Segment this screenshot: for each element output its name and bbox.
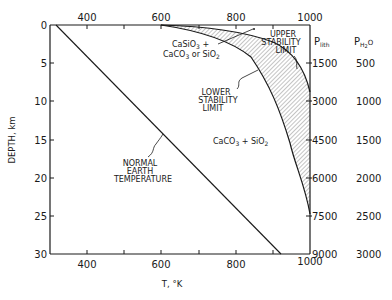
left-tick-label: 20 <box>34 173 47 184</box>
svg-text:LIMIT: LIMIT <box>276 46 297 55</box>
svg-text:CaSiO3 +: CaSiO3 + <box>172 40 209 50</box>
bottom-tick-label: 800 <box>226 259 245 270</box>
top-tick-label: 1000 <box>297 12 322 23</box>
p-lith-tick-label: 3000 <box>312 96 337 107</box>
chart: 400 600 800 1000 400 600 800 1000 0 5 10… <box>0 0 392 300</box>
p-h2o-tick-label: 1000 <box>356 96 381 107</box>
y-axis-label: DEPTH, km <box>7 116 17 163</box>
p-lith-tick-label: 4500 <box>312 135 337 146</box>
lower-leader-line <box>237 70 258 89</box>
left-tick-label: 5 <box>41 58 47 69</box>
left-tick-label: 15 <box>34 135 47 146</box>
p-lith-tick-label: 1500 <box>312 58 337 69</box>
p-h2o-tick-label: 2500 <box>356 211 381 222</box>
top-tick-label: 800 <box>226 12 245 23</box>
p-lith-tick-label: 7500 <box>312 211 337 222</box>
p-lith-header: Plith <box>314 36 330 48</box>
p-h2o-tick-label: 2000 <box>356 173 381 184</box>
lower-stability-limit-label: LOWER STABILITY LIMIT <box>198 88 237 113</box>
p-lith-tick-label: 9000 <box>312 249 337 260</box>
x-axis-label: T, °K <box>161 279 183 289</box>
p-h2o-tick-label: 3000 <box>356 249 381 260</box>
bottom-tick-label: 400 <box>77 259 96 270</box>
region1-leader-dot <box>253 28 255 30</box>
left-tick-label: 30 <box>34 249 47 260</box>
normal-leader-line <box>148 134 163 157</box>
svg-text:CaCO3 or SiO2: CaCO3 or SiO2 <box>163 50 220 60</box>
normal-earth-temperature-label: NORMAL EARTH TEMPERATURE <box>113 159 172 184</box>
p-lith-tick-label: 6000 <box>312 173 337 184</box>
p-h2o-header: PH2O <box>354 36 374 49</box>
svg-text:TEMPERATURE: TEMPERATURE <box>113 175 172 184</box>
region-caco3-sio2-label: CaCO3 + SiO2 <box>213 137 269 147</box>
left-tick-label: 25 <box>34 211 47 222</box>
svg-text:LIMIT: LIMIT <box>203 104 224 113</box>
p-h2o-tick-label: 1500 <box>356 135 381 146</box>
region-casio3-label: CaSiO3 + CaCO3 or SiO2 <box>163 40 220 60</box>
left-tick-label: 0 <box>41 20 47 31</box>
p-h2o-tick-label: 500 <box>356 58 375 69</box>
bottom-tick-label: 600 <box>151 259 170 270</box>
top-tick-label: 400 <box>77 12 96 23</box>
left-tick-label: 10 <box>34 96 47 107</box>
top-tick-label: 600 <box>151 12 170 23</box>
